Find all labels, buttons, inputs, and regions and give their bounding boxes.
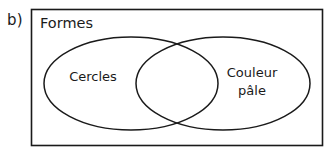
venn-diagram-svg: Formes Cercles Couleur pâle — [0, 0, 334, 157]
set-label-left: Cercles — [69, 69, 117, 84]
venn-diagram-figure: b) Formes Cercles Couleur pâle — [0, 0, 334, 157]
set-label-right-line-2: pâle — [238, 83, 266, 98]
universe-title: Formes — [40, 15, 93, 31]
set-label-right-line-1: Couleur — [227, 65, 278, 80]
